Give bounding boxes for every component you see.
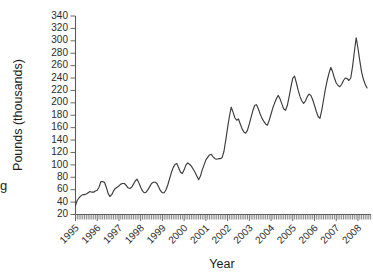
x-tick-label-2004: 2004 [253,222,277,246]
y-tick-label-300: 300 [51,34,68,45]
chart-figure: g 20406080100120140160180200220240260280… [0,0,373,274]
y-tick-label-220: 220 [51,84,68,95]
line-chart: 2040608010012014016018020022024026028030… [0,0,373,274]
y-tick-label-140: 140 [51,134,68,145]
x-tick-label-2008: 2008 [340,222,364,246]
x-axis-minor-ticks [76,215,371,222]
x-tick-label-2005: 2005 [275,222,299,246]
y-tick-label-100: 100 [51,159,68,170]
x-tick-label-2007: 2007 [318,222,342,246]
y-tick-label-340: 340 [51,10,68,21]
x-axis-tick-labels: 1995199619971998199920002001200220032004… [57,222,363,246]
x-tick-label-2001: 2001 [188,222,212,246]
y-axis-tick-labels: 2040608010012014016018020022024026028030… [51,10,68,220]
series-line-pounds [76,38,368,205]
x-axis-title: Year [209,257,234,271]
y-tick-label-160: 160 [51,121,68,132]
y-tick-label-60: 60 [57,183,69,194]
x-tick-label-1998: 1998 [123,222,147,246]
x-tick-label-1997: 1997 [101,222,125,246]
data-series-group [76,38,368,205]
y-tick-label-40: 40 [57,196,69,207]
y-tick-label-20: 20 [57,208,69,219]
x-tick-label-1995: 1995 [57,222,81,246]
y-tick-label-320: 320 [51,22,68,33]
x-tick-label-2002: 2002 [209,222,233,246]
y-tick-label-180: 180 [51,109,68,120]
y-tick-label-240: 240 [51,72,68,83]
y-axis-title: Pounds (thousands) [11,59,25,171]
y-tick-label-200: 200 [51,96,68,107]
x-tick-label-2006: 2006 [296,222,320,246]
x-tick-label-1996: 1996 [79,222,103,246]
y-tick-label-260: 260 [51,59,68,70]
y-axis-ticks [71,16,76,215]
x-tick-label-1999: 1999 [144,222,168,246]
y-axis: 2040608010012014016018020022024026028030… [51,10,75,220]
y-tick-label-80: 80 [57,171,69,182]
x-tick-label-2003: 2003 [231,222,255,246]
x-axis: 1995199619971998199920002001200220032004… [57,215,371,246]
y-tick-label-280: 280 [51,47,68,58]
x-tick-label-2000: 2000 [166,222,190,246]
y-tick-label-120: 120 [51,146,68,157]
